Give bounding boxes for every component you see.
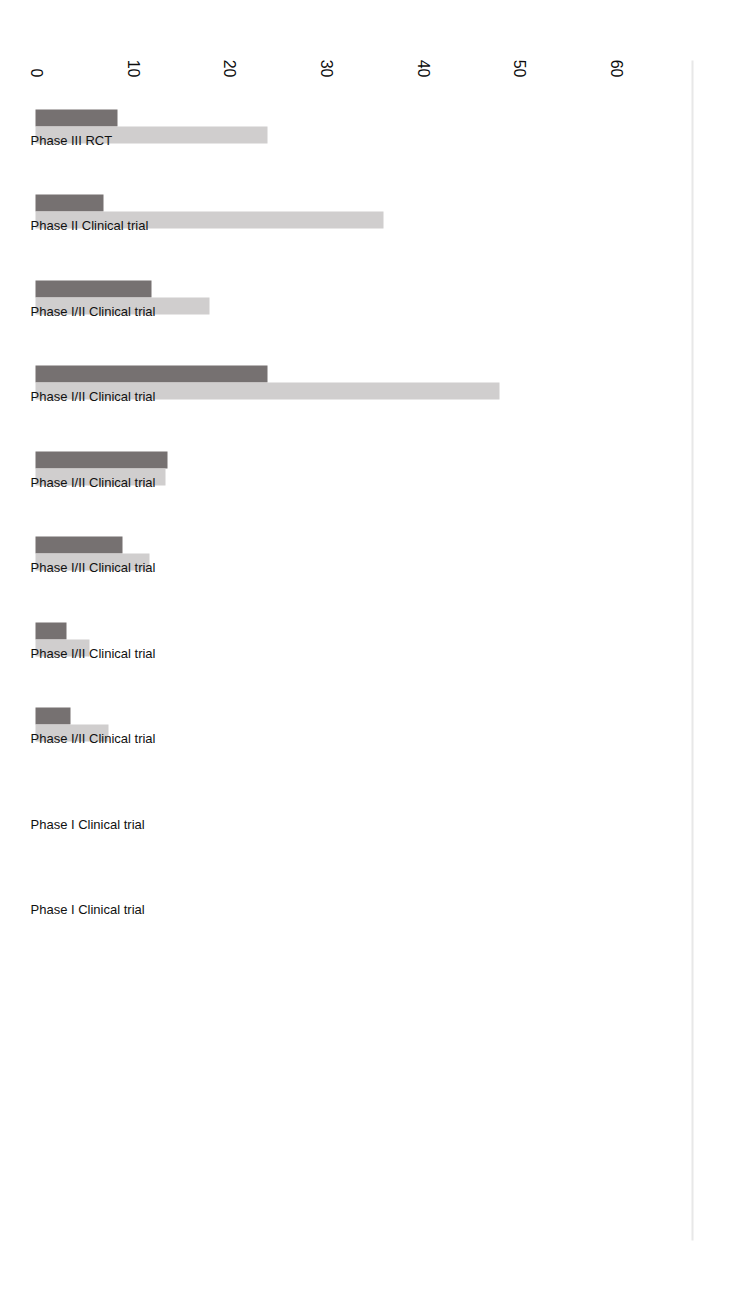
y-tick-label: 20 xyxy=(219,59,237,77)
y-tick-label: 0 xyxy=(26,68,44,77)
phase-label: Phase II Clinical trial xyxy=(30,217,148,232)
bar-group xyxy=(35,596,615,682)
bar-group xyxy=(35,511,615,597)
bars-layer xyxy=(35,83,615,938)
bar-group xyxy=(35,83,615,169)
phase-label: Phase I/II Clinical trial xyxy=(30,474,155,489)
bar-group xyxy=(35,682,615,768)
phase-label: Phase I/II Clinical trial xyxy=(30,388,155,403)
phase-label: Phase I Clinical trial xyxy=(30,816,144,831)
bar-group xyxy=(35,853,615,939)
bar-survival xyxy=(35,536,122,553)
bar-group xyxy=(35,340,615,426)
plot-area: 0102030405060 xyxy=(35,83,615,938)
y-tick-label: 30 xyxy=(316,59,334,77)
y-tick-label: 50 xyxy=(509,59,527,77)
phase-label: Phase I/II Clinical trial xyxy=(30,303,155,318)
bar-survival xyxy=(35,451,167,468)
bar-survival xyxy=(35,194,103,211)
bar-survival xyxy=(35,622,66,639)
bar-survival xyxy=(35,280,151,297)
bar-group xyxy=(35,254,615,340)
bar-group xyxy=(35,169,615,255)
bar-survival xyxy=(35,109,117,126)
rotated-figure: Median survival and follow-up period of … xyxy=(0,0,745,1291)
bar-survival xyxy=(35,365,267,382)
scan-artifact-line xyxy=(691,60,693,1240)
bar-group xyxy=(35,425,615,511)
bar-group xyxy=(35,767,615,853)
phase-label: Phase I/II Clinical trial xyxy=(30,730,155,745)
phase-label: Phase I Clinical trial xyxy=(30,901,144,916)
phase-label: Phase I/II Clinical trial xyxy=(30,559,155,574)
phase-label: Phase I/II Clinical trial xyxy=(30,645,155,660)
y-tick-label: 60 xyxy=(606,59,624,77)
chart-figure: Median survival and follow-up period of … xyxy=(0,0,745,1291)
y-tick-label: 10 xyxy=(123,59,141,77)
phase-label: Phase III RCT xyxy=(30,132,112,147)
y-tick-label: 40 xyxy=(413,59,431,77)
bar-survival xyxy=(35,707,70,724)
